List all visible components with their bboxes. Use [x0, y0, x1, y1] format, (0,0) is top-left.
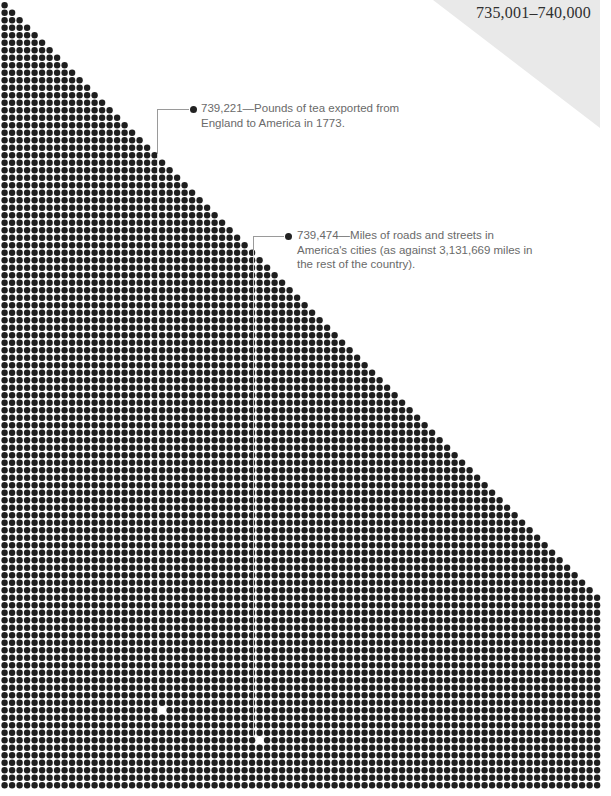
callout-roads-horizontal-line [253, 236, 284, 237]
callout-leader-upper-segment [253, 236, 254, 250]
callout-tea-vertical-line [157, 109, 158, 713]
callout-tea-bullet-icon [190, 106, 197, 113]
callout-roads-vertical-line [253, 236, 254, 737]
callout-tea-horizontal-line [157, 109, 189, 110]
callout-tea-text: 739,221—Pounds of tea exported from Engl… [201, 101, 399, 130]
callout-roads-bullet-icon [285, 233, 292, 240]
callout-tea-dash: — [243, 102, 255, 114]
callout-leader-upper-segment [157, 109, 158, 154]
callout-roads-dash: — [339, 229, 351, 241]
callout-tea-value: 739,221 [201, 102, 243, 114]
callout-roads-text: 739,474—Miles of roads and streets in Am… [297, 228, 533, 272]
callout-roads-value: 739,474 [297, 229, 339, 241]
